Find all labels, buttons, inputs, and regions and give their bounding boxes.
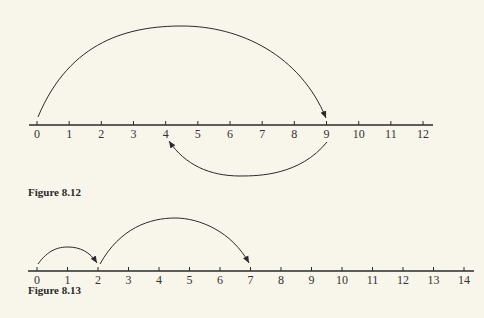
jump-arc-0-to-9 — [38, 26, 326, 118]
tick-label: 2 — [95, 273, 101, 287]
figure-caption: Figure 8.12 — [28, 186, 81, 198]
tick-label: 2 — [98, 127, 104, 141]
tick-label: 3 — [126, 273, 132, 287]
tick-label: 14 — [458, 273, 470, 287]
tick-label: 9 — [309, 273, 315, 287]
tick-label: 9 — [324, 127, 330, 141]
jump-arc-2-to-7 — [100, 218, 249, 264]
tick-label: 10 — [353, 127, 365, 141]
tick-label: 10 — [336, 273, 348, 287]
jump-arc-0-to-2 — [38, 247, 97, 264]
jump-arc-9-to-4 — [169, 141, 327, 176]
tick-label: 11 — [367, 273, 379, 287]
tick-labels: 0123456789101112 — [34, 127, 429, 141]
tick-label: 12 — [417, 127, 429, 141]
tick-label: 7 — [259, 127, 265, 141]
tick-label: 4 — [156, 273, 162, 287]
tick-label: 3 — [131, 127, 137, 141]
tick-label: 13 — [428, 273, 440, 287]
tick-label: 6 — [227, 127, 233, 141]
number-line-fig-8-12: 0123456789101112 — [29, 121, 433, 141]
tick-label: 7 — [248, 273, 254, 287]
tick-label: 8 — [278, 273, 284, 287]
tick-label: 12 — [397, 273, 409, 287]
tick-label: 5 — [195, 127, 201, 141]
figures-canvas: 0123456789101112 01234567891011121314 — [0, 0, 484, 318]
tick-labels: 01234567891011121314 — [34, 273, 470, 287]
tick-label: 0 — [34, 127, 40, 141]
tick-label: 11 — [385, 127, 397, 141]
figure-caption: Figure 8.13 — [28, 284, 81, 296]
tick-label: 4 — [163, 127, 169, 141]
tick-label: 6 — [217, 273, 223, 287]
tick-label: 8 — [291, 127, 297, 141]
tick-label: 1 — [66, 127, 72, 141]
number-line-fig-8-13: 01234567891011121314 — [28, 267, 474, 287]
tick-label: 5 — [187, 273, 193, 287]
